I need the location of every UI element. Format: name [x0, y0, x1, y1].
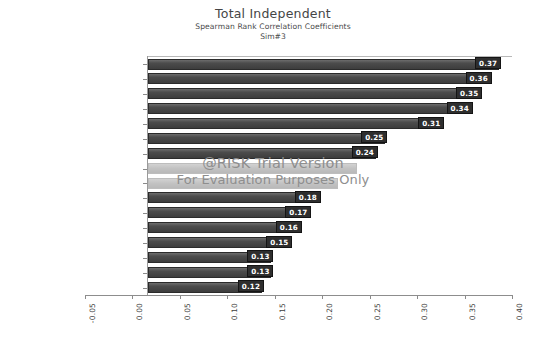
- y-axis-tick: [143, 258, 147, 259]
- x-axis-tick-label: 0.05: [183, 303, 192, 320]
- bar-row: 0.31: [148, 117, 512, 132]
- bar: [148, 59, 499, 70]
- bar-row: [148, 161, 512, 176]
- y-axis-tick: [143, 109, 147, 110]
- chart-subtitle: Spearman Rank Correlation Coefficients: [0, 21, 546, 32]
- x-axis-line: [85, 295, 513, 296]
- y-axis-tick: [143, 139, 147, 140]
- bar-value-label: 0.16: [276, 221, 302, 233]
- bar-row: 0.15: [148, 236, 512, 251]
- bar: [148, 148, 376, 159]
- bar-row: 0.25: [148, 131, 512, 146]
- bar: [148, 178, 338, 189]
- y-axis-tick: [143, 94, 147, 95]
- x-axis-tick-label: 0.35: [468, 303, 477, 320]
- bar-value-label: 0.13: [247, 250, 273, 262]
- bar-value-label: 0.36: [466, 72, 492, 84]
- bar: [148, 88, 480, 99]
- bar-value-label: 0.15: [266, 236, 292, 248]
- y-axis-tick: [143, 79, 147, 80]
- bar-value-label: 0.24: [352, 146, 378, 158]
- chart-title-block: Total Independent Spearman Rank Correlat…: [0, 6, 546, 42]
- bar-value-label: 0.12: [238, 280, 264, 292]
- y-axis-tick: [143, 198, 147, 199]
- bar-row: 0.36: [148, 72, 512, 87]
- bar-value-label: 0.31: [418, 117, 444, 129]
- bar: [148, 163, 357, 174]
- bar-value-label: 0.35: [456, 87, 482, 99]
- bar-value-label: 0.34: [447, 102, 473, 114]
- bar: [148, 192, 319, 203]
- bar-row: 0.24: [148, 146, 512, 161]
- bar-value-label: 0.13: [247, 265, 273, 277]
- x-axis-tick-label: 0.30: [420, 303, 429, 320]
- y-axis-tick: [143, 213, 147, 214]
- plot-area: 0.370.360.350.340.310.250.240.180.170.16…: [148, 57, 512, 295]
- y-axis-tick: [143, 243, 147, 244]
- page-title: Total Independent: [0, 6, 546, 21]
- bar-row: 0.13: [148, 265, 512, 280]
- x-axis-tick-label: 0.40: [515, 303, 524, 320]
- x-axis-tick-label: 0.10: [230, 303, 239, 320]
- bar-row: 0.16: [148, 221, 512, 236]
- bar: [148, 118, 442, 129]
- bar-value-label: 0.25: [361, 131, 387, 143]
- bar-value-label: 0.18: [295, 191, 321, 203]
- bar-row: 0.13: [148, 250, 512, 265]
- x-axis-tick-label: 0.00: [135, 303, 144, 320]
- x-axis-tick-label: 0.20: [325, 303, 334, 320]
- y-axis-tick: [143, 183, 147, 184]
- y-axis-tick: [143, 64, 147, 65]
- bar-row: 0.34: [148, 102, 512, 117]
- x-axis-tick-label: 0.25: [373, 303, 382, 320]
- y-axis-tick: [143, 124, 147, 125]
- bar: [148, 133, 385, 144]
- bar-value-label: 0.17: [285, 206, 311, 218]
- bar-row: [148, 176, 512, 191]
- bar-row: 0.35: [148, 87, 512, 102]
- chart-sim-label: Sim#3: [0, 32, 546, 42]
- bar: [148, 73, 490, 84]
- bar-row: 0.12: [148, 280, 512, 295]
- bar-row: 0.37: [148, 57, 512, 72]
- y-axis-tick: [143, 154, 147, 155]
- y-axis-tick: [143, 169, 147, 170]
- y-axis-tick: [143, 288, 147, 289]
- y-axis-tick: [143, 273, 147, 274]
- chart-container: Total Independent Spearman Rank Correlat…: [0, 0, 546, 344]
- y-axis-tick: [143, 228, 147, 229]
- x-axis-tick-label: -0.05: [88, 303, 97, 323]
- x-axis-tick-label: 0.15: [278, 303, 287, 320]
- bar-row: 0.18: [148, 191, 512, 206]
- bar-row: 0.17: [148, 206, 512, 221]
- bar-value-label: 0.37: [475, 57, 501, 69]
- bar: [148, 103, 471, 114]
